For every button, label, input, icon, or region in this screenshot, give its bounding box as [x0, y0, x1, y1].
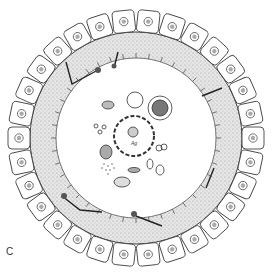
epithelial-cell: [9, 101, 35, 127]
panel-label: C: [6, 246, 13, 257]
epithelial-ring-diagram: [0, 0, 272, 273]
epithelial-cell: [237, 101, 263, 127]
figure-panel-c: Ag C: [0, 0, 272, 273]
epithelial-cell: [112, 10, 136, 34]
epithelial-cell: [8, 127, 30, 149]
epithelial-cell: [237, 149, 263, 175]
epithelial-cell: [242, 127, 264, 149]
epithelial-cell: [136, 10, 160, 34]
epithelial-cell: [112, 242, 136, 266]
epithelial-cell: [136, 242, 160, 266]
epithelial-cell: [9, 149, 35, 175]
center-label: Ag: [131, 140, 137, 146]
